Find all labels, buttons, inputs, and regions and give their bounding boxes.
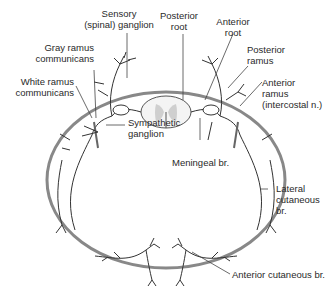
diagram-canvas: Sensory (spinal) ganglion Posterior root…: [0, 0, 332, 287]
label-anterior-cutaneous: Anterior cutaneous br.: [232, 269, 325, 280]
label-posterior-root: Posterior root: [154, 10, 204, 32]
label-anterior-ramus: Anterior ramus (intercostal n.): [262, 77, 322, 110]
label-gray-ramus: Gray ramus communicans: [0, 42, 94, 64]
anterior-cutaneous-branches: [95, 238, 237, 286]
label-sympathetic-ganglion: Sympathetic ganglion: [128, 117, 180, 139]
label-posterior-ramus: Posterior ramus: [247, 44, 285, 66]
leader-lines: [76, 33, 268, 274]
label-meningeal-branch: Meningeal br.: [172, 157, 229, 168]
label-lateral-cutaneous: Lateral cutaneous br.: [276, 183, 320, 216]
label-white-ramus: White ramus communicans: [0, 76, 74, 98]
label-anterior-root: Anterior root: [208, 16, 258, 38]
